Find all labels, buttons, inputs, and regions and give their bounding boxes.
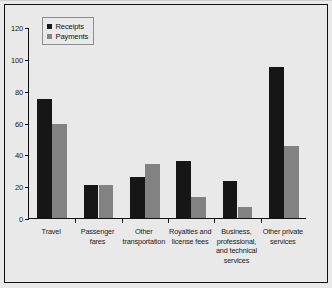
- category-label-line: services: [256, 237, 310, 247]
- category-label-line: and technical: [209, 246, 263, 256]
- y-axis-tick-label: 0: [19, 215, 23, 224]
- y-axis-tick: [25, 92, 29, 93]
- x-axis-category-label: Other privateservices: [256, 227, 310, 246]
- category-label-line: services: [209, 256, 263, 266]
- y-axis-tick: [25, 219, 29, 220]
- y-axis-tick-label: 120: [11, 24, 23, 33]
- y-axis-tick: [25, 155, 29, 156]
- legend-item-payments: Payments: [47, 31, 88, 41]
- x-axis-tick: [214, 218, 215, 223]
- legend-label-payments: Payments: [56, 32, 89, 41]
- bar-payments-5: [284, 146, 299, 218]
- y-axis-tick: [25, 28, 29, 29]
- bar-receipts-4: [223, 181, 238, 218]
- x-axis-tick: [168, 218, 169, 223]
- legend-label-receipts: Receipts: [56, 22, 84, 31]
- y-axis-tick-label: 100: [11, 55, 23, 64]
- y-axis-tick-label: 40: [15, 151, 23, 160]
- x-axis-tick: [122, 218, 123, 223]
- bar-receipts-0: [37, 99, 52, 218]
- x-axis-tick: [75, 218, 76, 223]
- x-axis-tick: [261, 218, 262, 223]
- legend-swatch-receipts-icon: [47, 24, 52, 29]
- y-axis-tick: [25, 187, 29, 188]
- y-axis-tick-label: 80: [15, 87, 23, 96]
- bar-payments-2: [145, 164, 160, 218]
- legend-swatch-payments-icon: [47, 34, 52, 39]
- y-axis-tick: [25, 124, 29, 125]
- chart-figure: 020406080100120 TravelPassengerfaresOthe…: [0, 0, 332, 288]
- category-label-line: Other private: [256, 227, 310, 237]
- bar-payments-1: [99, 185, 114, 218]
- bar-payments-3: [191, 197, 206, 218]
- y-axis-tick-label: 20: [15, 183, 23, 192]
- bar-payments-0: [52, 124, 67, 218]
- bar-receipts-2: [130, 177, 145, 218]
- page-top-rule: [0, 0, 332, 1]
- legend-item-receipts: Receipts: [47, 21, 88, 31]
- y-axis-tick-label: 60: [15, 119, 23, 128]
- bar-receipts-3: [176, 161, 191, 218]
- bar-receipts-5: [269, 67, 284, 218]
- chart-legend: Receipts Payments: [42, 17, 94, 45]
- plot-area: 020406080100120: [28, 28, 306, 219]
- bar-payments-4: [238, 207, 253, 218]
- bar-receipts-1: [84, 185, 99, 218]
- y-axis-tick: [25, 60, 29, 61]
